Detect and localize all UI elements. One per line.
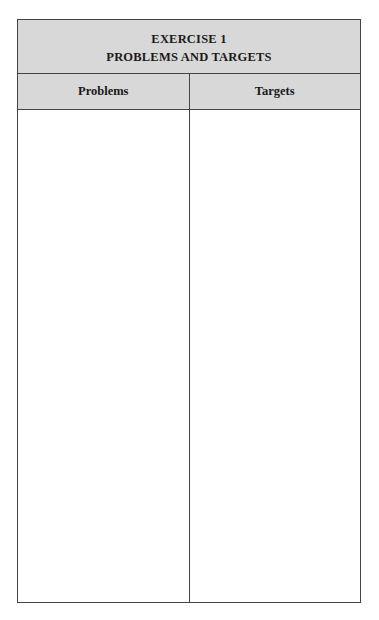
table-body-row [18,110,360,602]
exercise-title-block: EXERCISE 1 PROBLEMS AND TARGETS [18,20,360,74]
column-header-row: Problems Targets [18,74,360,110]
exercise-number-heading: EXERCISE 1 [151,30,226,48]
exercise-worksheet-table: EXERCISE 1 PROBLEMS AND TARGETS Problems… [17,19,361,603]
column-header-problems: Problems [18,74,190,109]
column-header-targets: Targets [190,74,361,109]
targets-writing-area[interactable] [190,110,361,602]
problems-writing-area[interactable] [18,110,190,602]
exercise-title-heading: PROBLEMS AND TARGETS [106,48,271,66]
